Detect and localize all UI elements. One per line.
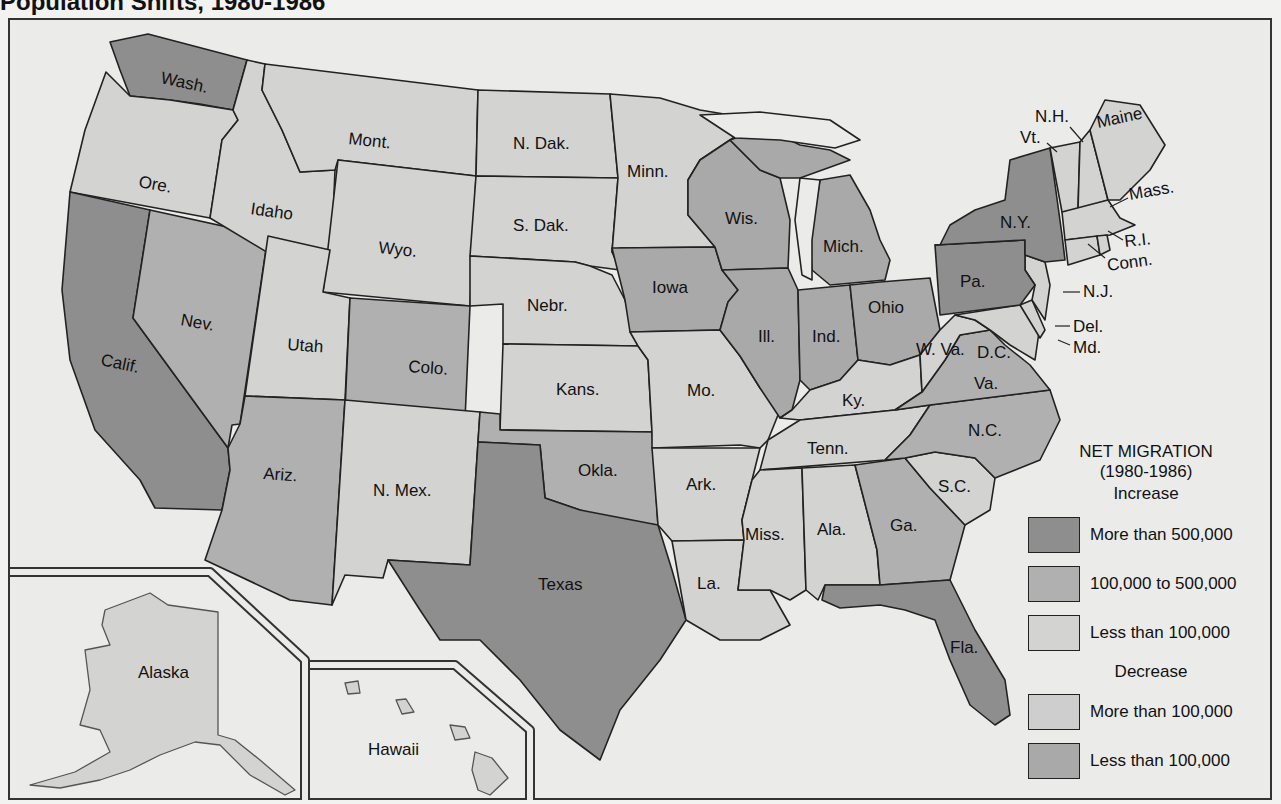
island-kauai bbox=[345, 681, 360, 694]
legend-swatch-increase-100k-500k bbox=[1028, 566, 1080, 602]
label-wva: W. Va. bbox=[916, 340, 965, 359]
label-conn: Conn. bbox=[1106, 250, 1154, 275]
label-sc: S.C. bbox=[938, 477, 971, 496]
legend-item: 100,000 to 500,000 bbox=[1020, 559, 1272, 608]
legend-item: More than 100,000 bbox=[1020, 687, 1272, 736]
label-hawaii: Hawaii bbox=[368, 740, 419, 759]
legend-label: Less than 100,000 bbox=[1090, 623, 1230, 643]
label-colo: Colo. bbox=[408, 357, 449, 379]
label-la: La. bbox=[697, 574, 721, 593]
legend-swatch-increase-less-100k bbox=[1028, 615, 1080, 651]
label-ohio: Ohio bbox=[868, 298, 904, 317]
label-minn: Minn. bbox=[627, 162, 669, 181]
state-mont bbox=[262, 64, 478, 176]
label-nebr: Nebr. bbox=[527, 296, 568, 315]
label-ind: Ind. bbox=[812, 327, 840, 346]
label-alaska: Alaska bbox=[138, 663, 190, 682]
legend-item: Less than 100,000 bbox=[1020, 736, 1272, 785]
legend-swatch-increase-more-500k bbox=[1028, 517, 1080, 553]
label-nj: N.J. bbox=[1083, 282, 1113, 301]
legend-item: Less than 100,000 bbox=[1020, 608, 1272, 657]
state-wyo bbox=[323, 160, 476, 306]
legend-decrease-heading: Decrease bbox=[1030, 657, 1272, 687]
legend-label: More than 500,000 bbox=[1090, 525, 1233, 545]
label-nc: N.C. bbox=[968, 421, 1002, 440]
label-ill: Ill. bbox=[758, 327, 775, 346]
island-big-island bbox=[472, 752, 508, 795]
label-vt: Vt. bbox=[1020, 128, 1041, 147]
label-tenn: Tenn. bbox=[807, 439, 849, 458]
label-mich: Mich. bbox=[823, 237, 864, 256]
label-nmex: N. Mex. bbox=[373, 481, 432, 500]
legend-item: More than 500,000 bbox=[1020, 510, 1272, 559]
state-alaska bbox=[30, 593, 295, 795]
label-iowa: Iowa bbox=[652, 278, 688, 297]
label-ariz: Ariz. bbox=[263, 464, 298, 485]
label-ny: N.Y. bbox=[1000, 213, 1031, 232]
label-del: Del. bbox=[1073, 317, 1103, 336]
label-wis: Wis. bbox=[725, 209, 758, 228]
label-miss: Miss. bbox=[745, 525, 785, 544]
label-ark: Ark. bbox=[686, 475, 716, 494]
legend-swatch-decrease-less-100k bbox=[1028, 743, 1080, 779]
label-ala: Ala. bbox=[817, 520, 846, 539]
label-va: Va. bbox=[974, 374, 998, 393]
legend-period: (1980-1986) bbox=[1020, 462, 1272, 482]
state-ri bbox=[1097, 235, 1110, 255]
label-nh: N.H. bbox=[1035, 107, 1069, 126]
state-mich bbox=[810, 175, 890, 285]
island-maui bbox=[450, 725, 470, 740]
legend-increase-heading: Increase bbox=[1020, 484, 1272, 504]
label-utah: Utah bbox=[287, 335, 324, 356]
state-conn bbox=[1065, 236, 1100, 265]
label-texas: Texas bbox=[538, 575, 582, 594]
label-sdak: S. Dak. bbox=[513, 216, 569, 235]
legend-label: Less than 100,000 bbox=[1090, 751, 1230, 771]
label-mo: Mo. bbox=[687, 381, 715, 400]
legend-title: NET MIGRATION bbox=[1020, 442, 1272, 462]
label-ga: Ga. bbox=[890, 516, 917, 535]
label-wyo: Wyo. bbox=[378, 238, 418, 261]
label-fla: Fla. bbox=[950, 638, 978, 657]
label-ri: R.I. bbox=[1123, 229, 1151, 251]
legend: NET MIGRATION (1980-1986) Increase More … bbox=[1020, 442, 1272, 785]
legend-label: More than 100,000 bbox=[1090, 702, 1233, 722]
label-pa: Pa. bbox=[960, 272, 986, 291]
island-oahu bbox=[396, 699, 414, 714]
state-fla bbox=[822, 580, 1010, 725]
label-dc: D.C. bbox=[977, 343, 1011, 362]
label-kans: Kans. bbox=[556, 380, 599, 399]
label-ky: Ky. bbox=[842, 391, 865, 410]
legend-swatch-decrease-more-100k bbox=[1028, 694, 1080, 730]
label-md: Md. bbox=[1073, 338, 1101, 357]
legend-label: 100,000 to 500,000 bbox=[1090, 574, 1237, 594]
label-ndak: N. Dak. bbox=[513, 134, 570, 153]
label-okla: Okla. bbox=[578, 461, 618, 480]
